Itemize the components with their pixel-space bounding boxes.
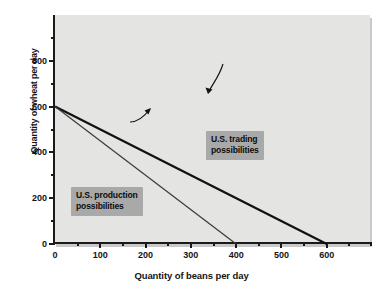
y-tick-label-800: 800: [32, 56, 47, 66]
x-tick-label-300: 300: [183, 250, 198, 260]
chart-figure: Quantity of wheat per day Quantity of be…: [0, 0, 383, 292]
x-tick-label-600: 600: [319, 250, 334, 260]
y-tick-label-0: 0: [42, 239, 47, 249]
x-tick-label-0: 0: [52, 250, 57, 260]
production-possibilities-label: U.S. production possibilities: [71, 187, 143, 216]
y-tick-label-200: 200: [32, 193, 47, 203]
x-tick-label-400: 400: [229, 250, 244, 260]
trading-arrow-icon: [208, 64, 223, 93]
trading-possibilities-label: U.S. trading possibilities: [206, 131, 264, 160]
x-tick-label-500: 500: [274, 250, 289, 260]
x-tick-label-100: 100: [93, 250, 108, 260]
y-tick-label-600: 600: [32, 102, 47, 112]
y-tick-label-400: 400: [32, 147, 47, 157]
x-tick-label-200: 200: [138, 250, 153, 260]
trading-arrowhead-icon: [206, 88, 213, 95]
x-axis-title: Quantity of beans per day: [0, 270, 383, 281]
